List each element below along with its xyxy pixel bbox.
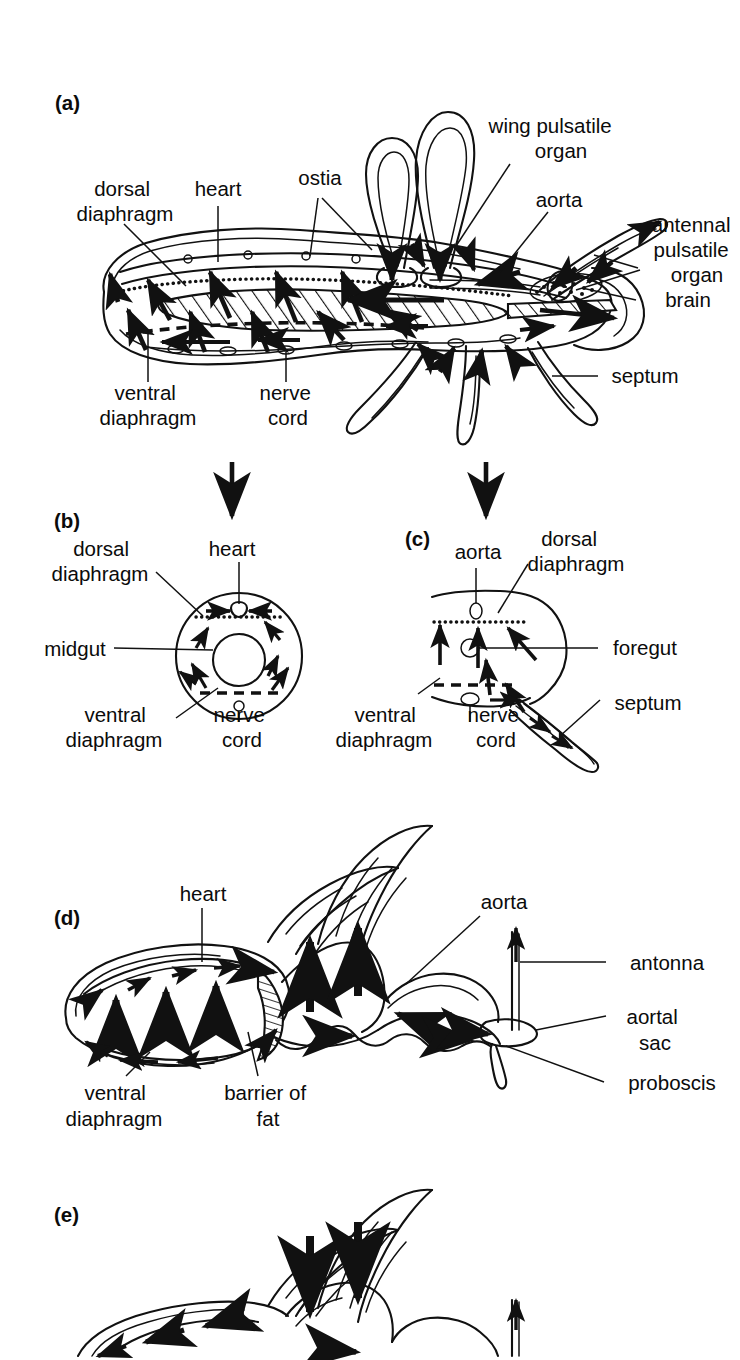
label-ostia: ostia bbox=[298, 166, 342, 189]
label-proboscis: proboscis bbox=[628, 1071, 716, 1094]
label-aorta: aorta bbox=[455, 540, 502, 563]
panel-e-id: (e) bbox=[54, 1203, 79, 1226]
panel-b-id: (b) bbox=[54, 509, 80, 532]
label-brain: brain bbox=[665, 288, 711, 311]
panel-d-id: (d) bbox=[54, 906, 80, 929]
panel-a-id: (a) bbox=[55, 91, 80, 114]
label-aorta: aorta bbox=[536, 188, 583, 211]
label-aorta: aorta bbox=[481, 890, 528, 913]
insect-circulatory-system-figure: (a) bbox=[0, 0, 740, 1360]
label-foregut: foregut bbox=[613, 636, 677, 659]
label-heart: heart bbox=[180, 882, 227, 905]
panel-c-id: (c) bbox=[405, 527, 430, 550]
label-septum: septum bbox=[611, 364, 678, 387]
label-heart: heart bbox=[195, 177, 242, 200]
label-septum: septum bbox=[614, 691, 681, 714]
label-heart: heart bbox=[209, 537, 256, 560]
label-midgut: midgut bbox=[44, 637, 106, 660]
label-antonna: antonna bbox=[630, 951, 705, 974]
